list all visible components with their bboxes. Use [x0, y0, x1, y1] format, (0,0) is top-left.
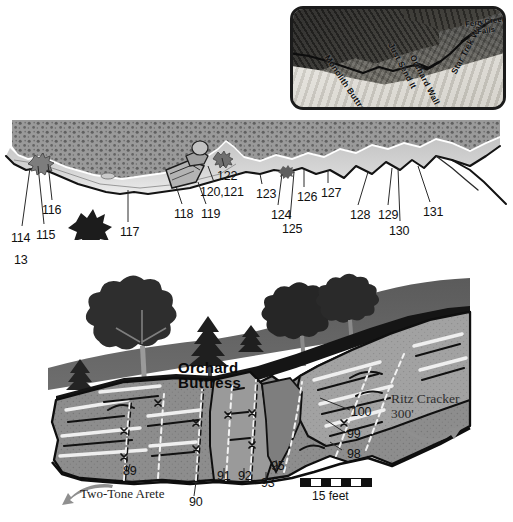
lower-label-93: 93	[261, 476, 275, 490]
band-label-125: 125	[282, 222, 302, 236]
band-label-120-121: 120,121	[200, 185, 244, 199]
band-label-130: 130	[389, 224, 409, 238]
cliff-band-drawing	[0, 112, 513, 240]
band-label-115: 115	[36, 228, 55, 242]
lower-label-92: 92	[238, 469, 252, 483]
band-label-119: 119	[201, 207, 220, 221]
scale-bar	[300, 478, 372, 487]
band-label-118: 118	[174, 207, 193, 221]
route-name-ritz-cracker: Ritz Cracker	[391, 391, 460, 406]
band-label-123: 123	[256, 187, 276, 201]
band-label-122: 122	[217, 169, 237, 183]
band-label-116: 116	[42, 203, 61, 217]
band-label-117: 117	[120, 225, 139, 239]
lower-label-95: 95	[271, 459, 285, 473]
overview-aerial-photo: Monolith Buttress Just Send It Orchard W…	[290, 6, 506, 110]
route-length-ritz-cracker: 300'	[391, 406, 414, 421]
lower-label-98: 98	[347, 447, 361, 461]
lower-label-89: 89	[123, 464, 137, 478]
band-label-126: 126	[297, 190, 317, 204]
lower-label-100: 100	[351, 405, 371, 419]
band-label-131: 131	[423, 205, 443, 219]
orchard-buttress-detail: Orchard Buttress Ritz Cracker 300' Two-T…	[0, 250, 513, 522]
guidebook-topo-page: Monolith Buttress Just Send It Orchard W…	[0, 0, 513, 522]
lower-label-90: 90	[189, 495, 203, 509]
lower-label-91: 91	[217, 469, 231, 483]
band-label-128: 128	[350, 208, 370, 222]
upper-cliff-band-profile: 13 114 115 116 117 118 119 120,121 122 1…	[0, 112, 513, 240]
scale-bar-caption: 15 feet	[312, 489, 349, 503]
band-label-114: 114	[11, 231, 30, 245]
ritz-cracker-arrow-icon	[404, 420, 464, 448]
lower-label-99: 99	[347, 427, 361, 441]
route-name-two-tone-arete: Two-Tone Arete	[80, 486, 164, 502]
band-label-127: 127	[321, 186, 341, 200]
band-label-129: 129	[378, 208, 398, 222]
orchard-buttress-title-line2: Buttress	[178, 375, 241, 391]
orchard-buttress-drawing	[0, 250, 513, 522]
band-label-124: 124	[271, 208, 291, 222]
